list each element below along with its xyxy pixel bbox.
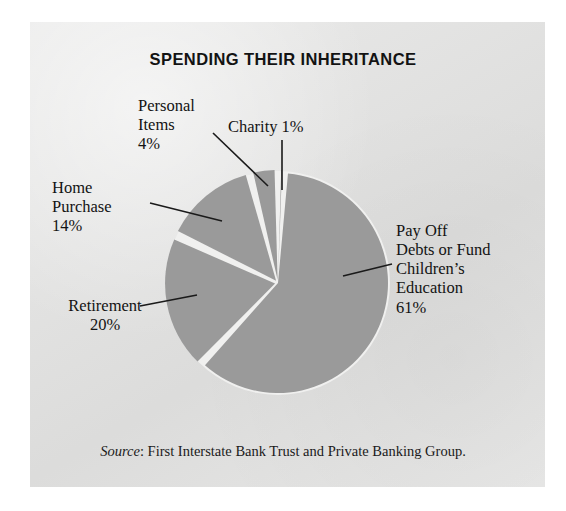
pie-label-retirement: Retirement 20%: [38, 296, 172, 334]
source-note: Source: First Interstate Bank Trust and …: [0, 443, 566, 460]
pie-slice-group: [165, 170, 390, 395]
figure-container: SPENDING THEIR INHERITANCE Personal Item…: [0, 0, 566, 511]
pie-label-charity: Charity 1%: [228, 117, 358, 136]
pie-label-personal-items: Personal Items 4%: [138, 96, 234, 153]
chart-title: SPENDING THEIR INHERITANCE: [0, 50, 566, 69]
source-label: Source: [100, 443, 140, 459]
source-text: : First Interstate Bank Trust and Privat…: [140, 443, 466, 459]
pie-label-home-purchase: Home Purchase 14%: [52, 178, 168, 235]
pie-label-payoff-debts: Pay Off Debts or Fund Children’s Educati…: [396, 221, 548, 317]
